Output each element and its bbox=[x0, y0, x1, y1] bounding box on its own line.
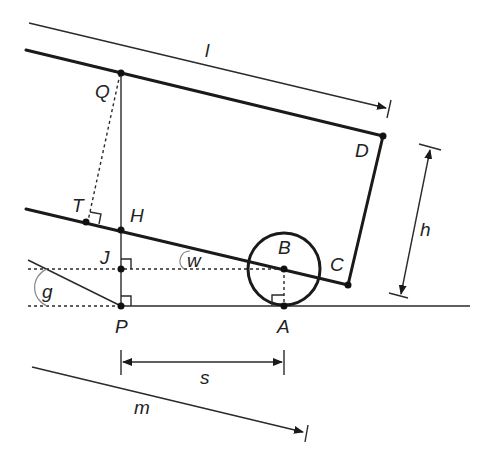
label-q: Q bbox=[95, 81, 110, 102]
dimension-h bbox=[389, 144, 441, 298]
lower-edge bbox=[26, 209, 348, 285]
label-l: l bbox=[205, 40, 210, 61]
top-edge bbox=[26, 50, 383, 136]
point-q bbox=[118, 70, 125, 77]
point-p bbox=[118, 303, 125, 310]
label-h: H bbox=[130, 205, 144, 226]
label-a: A bbox=[276, 316, 290, 337]
dimension-l bbox=[29, 23, 391, 118]
point-c bbox=[345, 282, 352, 289]
label-b: B bbox=[278, 237, 291, 258]
label-m: m bbox=[134, 397, 150, 418]
label-j: J bbox=[99, 247, 110, 268]
right-angle-t bbox=[90, 212, 101, 224]
label-w: w bbox=[187, 250, 202, 271]
label-s: s bbox=[200, 367, 210, 388]
label-h-dim: h bbox=[420, 219, 431, 240]
point-b bbox=[281, 266, 288, 273]
label-d: D bbox=[355, 140, 369, 161]
label-c: C bbox=[330, 254, 344, 275]
label-g: g bbox=[42, 281, 53, 302]
point-d bbox=[380, 133, 387, 140]
dimension-m bbox=[32, 367, 308, 442]
point-h bbox=[118, 227, 125, 234]
label-p: P bbox=[115, 316, 128, 337]
geometry-diagram: l Q D h T H J w B C g P A s m bbox=[0, 0, 488, 468]
label-t: T bbox=[72, 195, 85, 216]
point-t bbox=[83, 219, 90, 226]
point-a bbox=[281, 303, 288, 310]
point-j bbox=[118, 266, 125, 273]
